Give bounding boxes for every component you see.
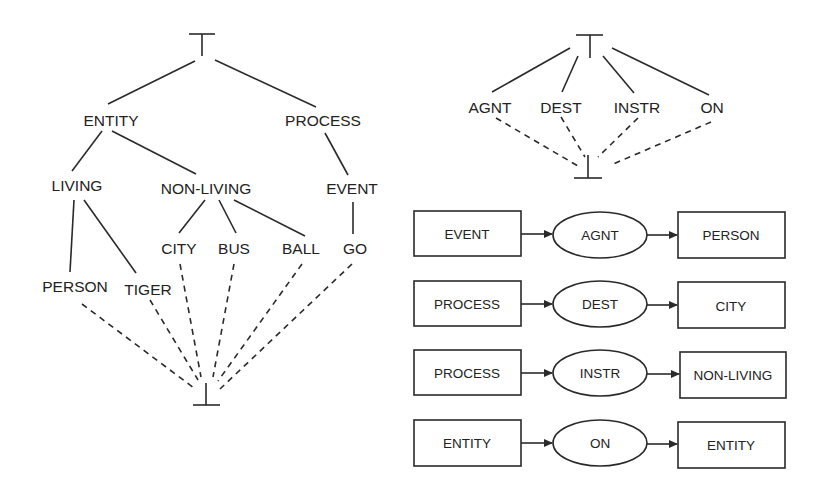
node-living: LIVING — [52, 177, 103, 194]
concept-type-diagram: ENTITY PROCESS LIVING NON-LIVING EVENT C… — [0, 0, 823, 494]
relation-agnt: AGNT — [468, 99, 512, 116]
signature-row: ENTITY ON ENTITY — [414, 420, 785, 468]
node-non-living: NON-LIVING — [161, 180, 251, 197]
relation-label: ON — [590, 436, 610, 451]
node-bus: BUS — [218, 240, 250, 257]
target-concept-label: CITY — [716, 299, 747, 314]
target-concept-label: ENTITY — [707, 438, 755, 453]
node-process: PROCESS — [285, 112, 361, 129]
target-concept-label: PERSON — [702, 228, 759, 243]
node-tiger: TIGER — [124, 281, 171, 298]
source-concept-label: EVENT — [444, 227, 489, 242]
target-concept-label: NON-LIVING — [694, 368, 773, 383]
relation-dashed-edges — [496, 117, 711, 166]
node-ball: BALL — [282, 240, 320, 257]
relation-instr: INSTR — [614, 99, 661, 116]
relation-label: DEST — [582, 297, 618, 312]
node-go: GO — [343, 240, 367, 257]
relation-label: AGNT — [581, 228, 619, 243]
node-person: PERSON — [42, 278, 107, 295]
node-city: CITY — [161, 240, 196, 257]
node-entity: ENTITY — [83, 112, 138, 129]
bottom-icon — [574, 155, 602, 178]
node-event: EVENT — [326, 180, 378, 197]
dashed-edges — [82, 264, 352, 389]
signature-row: PROCESS DEST CITY — [414, 281, 785, 328]
relation-signatures: EVENT AGNT PERSON PROCESS DEST CITY PROC… — [414, 211, 786, 468]
type-hierarchy: ENTITY PROCESS LIVING NON-LIVING EVENT C… — [42, 34, 378, 405]
relation-on: ON — [700, 99, 723, 116]
signature-row: EVENT AGNT PERSON — [414, 211, 785, 258]
bottom-icon — [193, 383, 220, 405]
relation-hierarchy: AGNT DEST INSTR ON — [468, 35, 723, 178]
top-icon — [576, 35, 603, 58]
relation-label: INSTR — [580, 366, 621, 381]
source-concept-label: PROCESS — [434, 297, 500, 312]
source-concept-label: ENTITY — [443, 436, 491, 451]
signature-row: PROCESS INSTR NON-LIVING — [414, 350, 786, 398]
relation-edges — [492, 48, 709, 95]
relation-dest: DEST — [540, 99, 582, 116]
top-icon — [189, 34, 215, 56]
source-concept-label: PROCESS — [434, 366, 500, 381]
